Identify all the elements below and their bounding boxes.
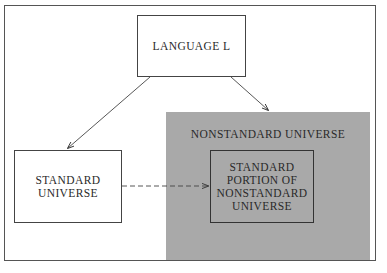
arrow-language-to-nonstandard [231, 77, 268, 110]
edges-layer [0, 0, 387, 273]
arrow-language-to-standard [68, 77, 150, 148]
